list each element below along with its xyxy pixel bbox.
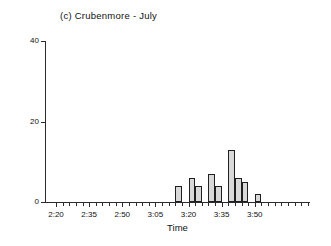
bar [255, 194, 262, 202]
x-tick-mark-major [222, 202, 223, 207]
x-tick-mark [228, 202, 229, 206]
y-tick-label: 40 [30, 37, 39, 45]
x-tick-mark [149, 202, 150, 206]
x-tick-mark [268, 202, 269, 206]
x-tick-mark-major [56, 202, 57, 207]
bar [195, 186, 202, 202]
x-tick-mark [169, 202, 170, 206]
x-tick-mark [275, 202, 276, 206]
bar [242, 182, 249, 202]
x-tick-label: 3:05 [148, 210, 164, 219]
x-tick-mark [208, 202, 209, 206]
x-tick-mark-major [89, 202, 90, 207]
x-tick-label: 3:20 [181, 210, 197, 219]
x-tick-label: 2:35 [81, 210, 97, 219]
x-tick-mark-major [189, 202, 190, 207]
bar [175, 186, 182, 202]
x-tick-mark [242, 202, 243, 206]
plot-area: 02040 2:202:352:503:053:203:353:50 [45, 41, 310, 202]
x-tick-mark [202, 202, 203, 206]
x-tick-mark [235, 202, 236, 206]
x-tick-mark [215, 202, 216, 206]
y-tick-mark [41, 202, 45, 203]
x-tick-mark [248, 202, 249, 206]
x-tick-label: 2:20 [48, 210, 64, 219]
x-tick-mark [116, 202, 117, 206]
x-tick-mark [142, 202, 143, 206]
y-tick-label: 0 [35, 198, 39, 206]
x-tick-mark [102, 202, 103, 206]
x-tick-mark [69, 202, 70, 206]
x-tick-mark [136, 202, 137, 206]
x-tick-mark [83, 202, 84, 206]
x-tick-mark [175, 202, 176, 206]
chart-title: (c) Crubenmore - July [60, 10, 157, 21]
x-tick-label: 2:50 [114, 210, 130, 219]
x-tick-mark [261, 202, 262, 206]
y-tick-label: 20 [30, 118, 39, 126]
bar [235, 178, 242, 202]
bar [215, 186, 222, 202]
x-tick-mark [281, 202, 282, 206]
bar-series [45, 41, 310, 202]
x-tick-mark-major [122, 202, 123, 207]
x-tick-mark [162, 202, 163, 206]
x-tick-mark [182, 202, 183, 206]
bar [208, 174, 215, 202]
bar [189, 178, 196, 202]
x-tick-mark-major [255, 202, 256, 207]
x-tick-mark [109, 202, 110, 206]
x-axis-line [45, 202, 310, 203]
x-tick-mark [301, 202, 302, 206]
x-tick-mark [295, 202, 296, 206]
x-tick-mark [195, 202, 196, 206]
x-tick-mark [63, 202, 64, 206]
x-tick-label: 3:35 [214, 210, 230, 219]
x-tick-mark [308, 202, 309, 206]
x-tick-mark-major [155, 202, 156, 207]
bar [228, 150, 235, 202]
x-tick-mark [76, 202, 77, 206]
x-tick-mark [96, 202, 97, 206]
chart-figure: (c) Crubenmore - July No. of song flight… [0, 0, 331, 246]
x-tick-label: 3:50 [247, 210, 263, 219]
x-axis-title: Time [45, 222, 310, 233]
x-tick-mark [129, 202, 130, 206]
x-tick-mark [288, 202, 289, 206]
